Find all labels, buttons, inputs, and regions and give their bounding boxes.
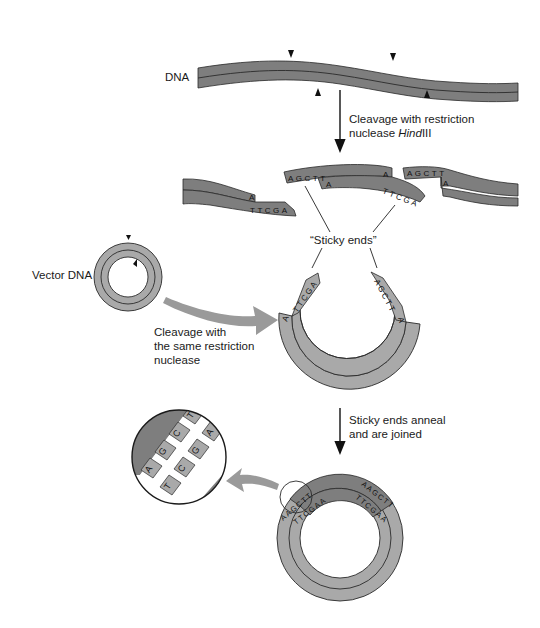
cut-marker-icon xyxy=(315,88,321,96)
opened-vector: A TTCGA AGCTT A xyxy=(279,272,420,389)
genomic-dna-strand xyxy=(198,61,518,102)
step2-caption: Cleavage with the same restriction nucle… xyxy=(154,325,254,367)
enzyme-name-italic: Hind xyxy=(398,127,422,139)
step2-caption-line1: Cleavage with xyxy=(154,325,254,339)
step2-caption-line2: the same restriction xyxy=(154,339,254,353)
recombinant-dna-diagram: A TTCGA AGCTT A A TTCGA AGCTT A xyxy=(0,0,540,628)
svg-text:TTCGA: TTCGA xyxy=(250,206,290,215)
vector-dna-label: Vector DNA xyxy=(32,268,92,282)
recombinant-plasmid: AAGCTT TTCGAA AAGCTT TTCGAA xyxy=(277,474,403,601)
svg-text:AGCTT: AGCTT xyxy=(288,174,328,183)
svg-text:A: A xyxy=(383,170,389,179)
sticky-end-pointers xyxy=(305,186,395,268)
cut-marker-icon xyxy=(390,53,396,61)
step2-caption-line3: nuclease xyxy=(154,353,254,367)
magnify-arrow xyxy=(226,468,279,492)
svg-text:A: A xyxy=(249,193,255,202)
sticky-ends-label: “Sticky ends” xyxy=(310,233,376,247)
magnified-junction: A G C T T C G A xyxy=(120,380,240,540)
svg-text:A: A xyxy=(443,179,449,188)
cut-marker-icon xyxy=(288,50,294,58)
diagram-graphics: A TTCGA AGCTT A A TTCGA AGCTT A xyxy=(0,0,540,628)
step3-caption: Sticky ends anneal and are joined xyxy=(349,413,446,441)
step1-caption-line1: Cleavage with restriction xyxy=(349,112,474,126)
step3-caption-line2: and are joined xyxy=(349,427,446,441)
step1-caption: Cleavage with restriction nuclease HindI… xyxy=(349,112,474,140)
vector-plasmid xyxy=(94,235,162,311)
step3-caption-line1: Sticky ends anneal xyxy=(349,413,446,427)
left-fragment: A TTCGA xyxy=(183,179,296,216)
step1-caption-line2: nuclease HindIII xyxy=(349,126,474,140)
cut-marker-icon xyxy=(126,235,131,240)
svg-text:A: A xyxy=(326,180,332,189)
dna-label: DNA xyxy=(165,70,189,84)
svg-text:AGCTT: AGCTT xyxy=(407,169,447,178)
